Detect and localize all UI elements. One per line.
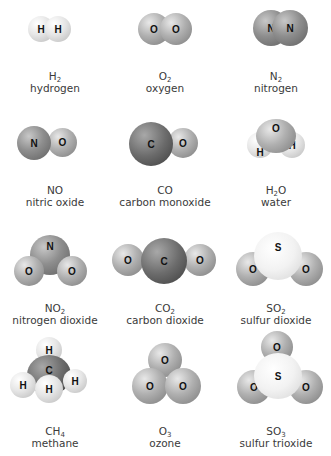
molecule-caption: H2 hydrogen [0,70,110,94]
formula: SO2 [221,302,331,314]
molecule-name: sulfur trioxide [221,437,331,449]
molecule-name: nitrogen dioxide [0,314,110,326]
atom-hydrogen: H [10,372,36,398]
molecule-ozone: O O O O3 ozone [110,335,220,456]
formula: CO2 [110,302,220,314]
atom-oxygen: O [165,368,201,404]
molecule-name: carbon dioxide [110,314,220,326]
molecule-nitrogen-dioxide: N O O NO2 nitrogen dioxide [0,225,110,340]
molecule-caption: SO3 sulfur trioxide [221,425,331,449]
atom-oxygen: O [160,13,192,45]
formula: SO3 [221,425,331,437]
molecule-name: ozone [110,437,220,449]
formula: O2 [110,70,220,82]
molecule-caption: CH4 methane [0,425,110,449]
molecule-name: hydrogen [0,82,110,94]
molecule-name: carbon monoxide [110,196,220,208]
formula: O3 [110,425,220,437]
molecule-name: sulfur dioxide [221,314,331,326]
atom-oxygen: O [48,128,77,157]
molecule-caption: O2 oxygen [110,70,220,94]
atom-oxygen: O [256,119,296,153]
atom-carbon: C [141,238,187,284]
molecule-name: methane [0,437,110,449]
atom-hydrogen: H [63,369,87,393]
molecule-caption: NO2 nitrogen dioxide [0,302,110,326]
formula: H2 [0,70,110,82]
molecule-caption: H2O water [221,184,331,208]
molecule-water: H H O H2O water [221,110,331,225]
molecule-caption: O3 ozone [110,425,220,449]
molecule-sulfur-trioxide: O O O S SO3 sulfur trioxide [221,335,331,456]
molecule-name: water [221,196,331,208]
molecule-hydrogen: H H H2 hydrogen [0,0,110,110]
atom-oxygen: O [184,244,216,276]
atom-hydrogen: H [35,375,63,403]
formula: NO [0,184,110,196]
atom-sulfur: S [254,353,302,399]
molecule-oxygen: O O O2 oxygen [110,0,220,110]
molecule-nitric-oxide: O N NO nitric oxide [0,110,110,225]
molecule-sulfur-dioxide: O O S SO2 sulfur dioxide [221,225,331,340]
atom-nitrogen: N [272,10,308,46]
atom-oxygen: O [57,256,87,286]
formula: CO [110,184,220,196]
molecule-caption: NO nitric oxide [0,184,110,208]
molecule-caption: CO2 carbon dioxide [110,302,220,326]
molecule-nitrogen: N N N2 nitrogen [221,0,331,110]
atom-oxygen: O [132,368,168,404]
atom-oxygen: O [112,244,144,276]
molecule-name: oxygen [110,82,220,94]
molecule-carbon-dioxide: O O C CO2 carbon dioxide [110,225,220,340]
formula: H2O [221,184,331,196]
molecule-methane: H C H H H CH4 methane [0,335,110,456]
formula: NO2 [0,302,110,314]
formula: CH4 [0,425,110,437]
atom-oxygen: O [14,256,44,286]
atom-carbon: C [129,122,173,166]
atom-hydrogen: H [45,16,71,42]
molecule-caption: SO2 sulfur dioxide [221,302,331,326]
molecule-caption: CO carbon monoxide [110,184,220,208]
molecule-name: nitrogen [221,82,331,94]
molecule-carbon-monoxide: O C CO carbon monoxide [110,110,220,225]
molecule-name: nitric oxide [0,196,110,208]
atom-sulfur: S [254,232,302,280]
atom-nitrogen: N [17,126,51,160]
formula: N2 [221,70,331,82]
molecule-caption: N2 nitrogen [221,70,331,94]
